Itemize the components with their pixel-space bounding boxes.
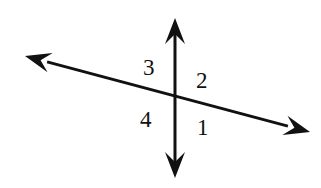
angle-label-2: 2: [196, 69, 208, 92]
diagonal-double-arrow-line: [25, 53, 310, 135]
angle-label-3: 3: [143, 56, 155, 79]
diagonal-line-shaft: [47, 62, 288, 126]
intersecting-lines-graphic: [0, 0, 321, 188]
angle-label-4: 4: [140, 108, 152, 131]
angle-label-1: 1: [197, 116, 209, 139]
angle-diagram-figure: 3 2 4 1: [0, 0, 321, 188]
